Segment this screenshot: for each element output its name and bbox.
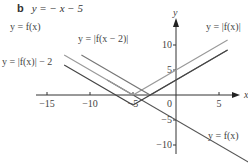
x-tick-label: −10 — [82, 98, 98, 109]
label-f-left: y = f(x) — [10, 21, 41, 33]
y-tick-label: 10 — [162, 39, 172, 50]
x-tick-label: 5 — [217, 98, 222, 109]
x-tick-label: 0 — [167, 98, 172, 109]
x-tick-label: −5 — [128, 98, 139, 109]
x-tick-label: −15 — [39, 98, 55, 109]
label-abs-f: y = |f(x)| — [206, 21, 241, 33]
y-axis-label: y — [172, 7, 178, 18]
series-line-3 — [64, 50, 227, 105]
x-axis-label: x — [243, 89, 248, 100]
label-abs-f-minus-2: y = |f(x)| − 2 — [2, 56, 52, 68]
label-f-right: y = f(x) — [208, 130, 239, 142]
series-line-1 — [64, 40, 227, 95]
y-tick-label: −5 — [161, 114, 172, 125]
y-tick-label: −10 — [156, 139, 172, 150]
x-axis-arrow-icon — [232, 92, 240, 98]
label-abs-f-shift: y = |f(x − 2)| — [78, 33, 128, 45]
plot-area: xy−15−10−505−10−5510y = f(x)y = |f(x − 2… — [0, 0, 248, 165]
y-axis-arrow-icon — [173, 18, 179, 27]
